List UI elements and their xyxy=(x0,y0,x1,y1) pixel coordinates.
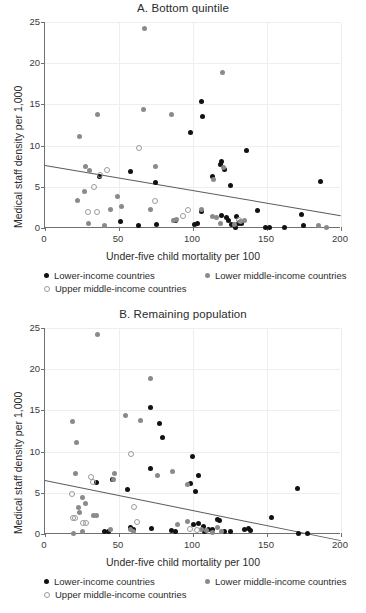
legend-label-lower-income: Lower-income countries xyxy=(54,576,155,587)
legend-item-lower-income: Lower-income countries xyxy=(44,576,155,587)
figure-container: A. Bottom quintile Under-five child mort… xyxy=(0,0,366,613)
gridline-vertical xyxy=(341,328,342,533)
data-point xyxy=(136,223,141,228)
data-point xyxy=(128,451,134,457)
x-tick-mark xyxy=(193,533,194,537)
data-point xyxy=(95,112,100,117)
gridline-vertical xyxy=(267,22,268,227)
x-tick-label: 0 xyxy=(29,539,59,550)
legend-label-upper-middle-income: Upper middle-income countries xyxy=(55,283,186,294)
data-point xyxy=(115,194,120,199)
data-point xyxy=(123,413,128,418)
data-point xyxy=(118,219,123,224)
legend-label-lower-middle-income: Lower middle-income countries xyxy=(215,576,346,587)
y-tick-mark xyxy=(41,452,45,453)
data-point xyxy=(214,215,219,220)
chart-a-legend: Lower-income countries Lower middle-inco… xyxy=(0,270,366,296)
y-tick-mark xyxy=(41,369,45,370)
x-tick-mark xyxy=(119,533,120,537)
data-point xyxy=(119,204,124,209)
data-point xyxy=(175,522,180,527)
y-tick-label: 25 xyxy=(14,16,40,27)
data-point xyxy=(236,217,242,223)
legend-marker-lower-middle-income-icon xyxy=(205,273,210,278)
data-point xyxy=(170,469,175,474)
legend-marker-lower-income-icon xyxy=(44,273,49,278)
y-tick-mark xyxy=(41,534,45,535)
chart-panel-b: B. Remaining population Under-five child… xyxy=(0,306,366,613)
gridline-vertical xyxy=(267,328,268,533)
chart-a-title: A. Bottom quintile xyxy=(0,2,366,14)
data-point xyxy=(91,184,97,190)
gridline-horizontal xyxy=(45,369,340,370)
y-tick-label: 10 xyxy=(14,140,40,151)
data-point xyxy=(87,168,92,173)
data-point xyxy=(153,180,158,185)
x-tick-label: 50 xyxy=(103,539,133,550)
y-tick-label: 20 xyxy=(14,57,40,68)
y-tick-label: 15 xyxy=(14,404,40,415)
legend-item-upper-middle-income: Upper middle-income countries xyxy=(44,283,186,294)
data-point xyxy=(157,421,162,426)
data-point xyxy=(108,527,113,532)
data-point xyxy=(82,189,87,194)
y-tick-label: 5 xyxy=(14,181,40,192)
legend-marker-upper-middle-income-icon xyxy=(44,592,50,598)
data-point xyxy=(102,223,107,228)
gridline-horizontal xyxy=(45,452,340,453)
data-point xyxy=(269,515,274,520)
data-point xyxy=(72,515,78,521)
x-tick-label: 150 xyxy=(251,233,281,244)
data-point xyxy=(210,530,215,535)
data-point xyxy=(104,167,110,173)
gridline-horizontal xyxy=(45,63,340,64)
data-point xyxy=(77,510,82,515)
gridline-horizontal xyxy=(45,187,340,188)
data-point xyxy=(199,207,204,212)
y-tick-mark xyxy=(41,187,45,188)
data-point xyxy=(148,376,153,381)
data-point xyxy=(160,435,165,440)
data-point xyxy=(83,520,89,526)
data-point xyxy=(70,419,75,424)
data-point xyxy=(131,529,136,534)
data-point xyxy=(148,466,153,471)
data-point xyxy=(196,521,201,526)
data-point xyxy=(194,527,200,533)
gridline-horizontal xyxy=(45,410,340,411)
data-point xyxy=(255,208,260,213)
data-point xyxy=(111,477,116,482)
data-point xyxy=(248,528,253,533)
gridline-vertical xyxy=(119,328,120,533)
data-point xyxy=(173,529,178,534)
data-point xyxy=(136,145,142,151)
data-point xyxy=(141,107,146,112)
legend-label-lower-income: Lower-income countries xyxy=(54,270,155,281)
legend-marker-upper-middle-income-icon xyxy=(44,286,50,292)
y-tick-label: 10 xyxy=(14,446,40,457)
data-point xyxy=(71,531,76,536)
data-point xyxy=(76,505,81,510)
data-point xyxy=(180,213,186,219)
x-tick-mark xyxy=(193,227,194,231)
legend-item-lower-middle-income: Lower middle-income countries xyxy=(205,270,346,281)
legend-item-lower-middle-income: Lower middle-income countries xyxy=(205,576,346,587)
data-point xyxy=(204,528,209,533)
data-point xyxy=(148,207,153,212)
legend-label-upper-middle-income: Upper middle-income countries xyxy=(55,589,186,600)
chart-b-legend: Lower-income countries Lower middle-inco… xyxy=(0,576,366,602)
x-tick-mark xyxy=(45,533,46,537)
x-tick-label: 0 xyxy=(29,233,59,244)
data-point xyxy=(221,165,226,170)
data-point xyxy=(85,209,91,215)
data-point xyxy=(232,222,237,227)
data-point xyxy=(192,222,197,227)
data-point xyxy=(185,207,191,213)
y-tick-mark xyxy=(41,228,45,229)
y-tick-mark xyxy=(41,63,45,64)
x-tick-label: 200 xyxy=(325,539,355,550)
gridline-horizontal xyxy=(45,104,340,105)
chart-a-x-axis-title: Under-five child mortality per 100 xyxy=(0,250,366,262)
x-tick-mark xyxy=(45,227,46,231)
data-point xyxy=(94,209,100,215)
